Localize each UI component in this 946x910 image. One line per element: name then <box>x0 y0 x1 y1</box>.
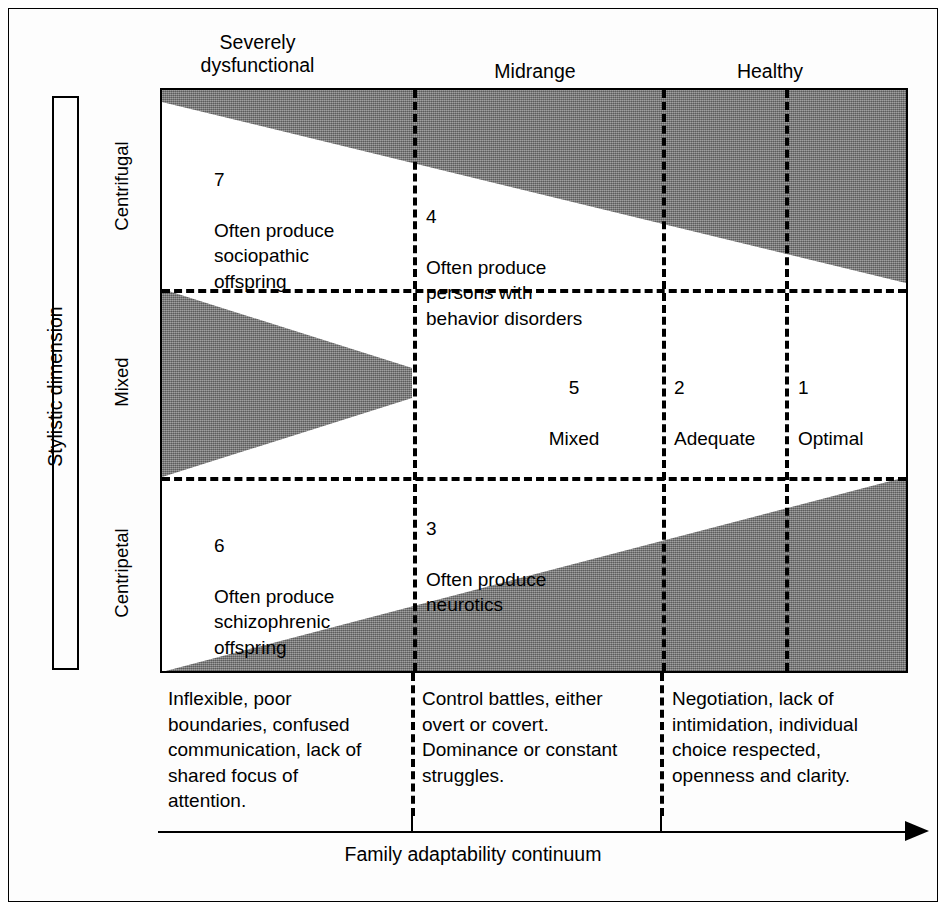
cell-6: 6 Often produce schizophrenic offspring <box>214 507 414 660</box>
row-label-mixed: Mixed <box>111 312 133 452</box>
continuum-tick-2 <box>660 812 662 831</box>
column-header-healthy: Healthy <box>680 60 860 83</box>
cell-6-text: Often produce schizophrenic offspring <box>214 586 334 658</box>
stylistic-dimension-bracket-stem <box>77 96 79 670</box>
column-divider-1-extension <box>411 673 415 816</box>
description-midrange: Control battles, either overt or covert.… <box>422 686 662 788</box>
cell-1: 1 Optimal <box>798 349 903 451</box>
band-separator-lower <box>162 477 906 481</box>
row-label-centrifugal: Centrifugal <box>111 101 133 271</box>
cell-2-number: 2 <box>674 375 779 401</box>
cell-5-number: 5 <box>509 375 639 401</box>
arrow-right-icon <box>905 821 929 841</box>
cell-1-text: Optimal <box>798 428 863 449</box>
column-header-severely-dysfunctional: Severely dysfunctional <box>165 31 350 77</box>
column-divider-3 <box>785 90 789 671</box>
description-healthy: Negotiation, lack of intimidation, indiv… <box>672 686 922 788</box>
cell-3: 3 Often produce neurotics <box>426 490 641 618</box>
row-label-centripetal: Centripetal <box>111 488 133 658</box>
cell-4-text: Often produce persons with behavior diso… <box>426 257 582 329</box>
cell-7: 7 Often produce sociopathic offspring <box>214 141 414 294</box>
cell-5-text: Mixed <box>549 428 600 449</box>
continuum-tick-1 <box>411 812 413 831</box>
cell-5: 5 Mixed <box>509 349 639 451</box>
cell-3-text: Often produce neurotics <box>426 569 546 616</box>
axis-label-y: Stylistic dimension <box>44 257 67 517</box>
description-severely-dysfunctional: Inflexible, poor boundaries, confused co… <box>168 686 408 814</box>
cell-7-text: Often produce sociopathic offspring <box>214 220 334 292</box>
continuum-axis-line <box>158 831 910 833</box>
cell-4: 4 Often produce persons with behavior di… <box>426 178 676 331</box>
cell-4-number: 4 <box>426 204 676 230</box>
cell-3-number: 3 <box>426 516 641 542</box>
column-header-midrange: Midrange <box>420 60 650 83</box>
cell-2: 2 Adequate <box>674 349 779 451</box>
cell-1-number: 1 <box>798 375 903 401</box>
axis-label-x: Family adaptability continuum <box>0 843 946 866</box>
matrix-plot-area: 7 Often produce sociopathic offspring 4 … <box>160 88 908 673</box>
cell-7-number: 7 <box>214 167 414 193</box>
cell-2-text: Adequate <box>674 428 755 449</box>
figure-canvas: Stylistic dimension Severely dysfunction… <box>0 0 946 910</box>
cell-6-number: 6 <box>214 533 414 559</box>
